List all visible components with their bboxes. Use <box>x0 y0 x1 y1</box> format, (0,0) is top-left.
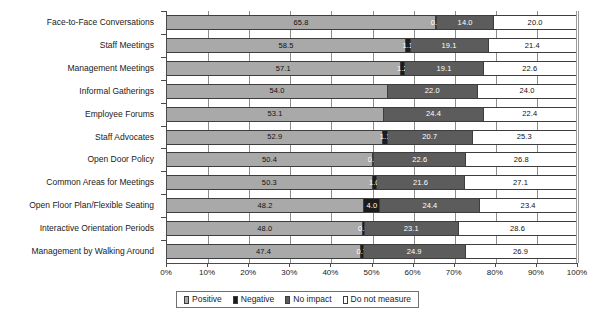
bar-segment-negative: 4.0 <box>364 199 380 212</box>
x-axis-tick-label: 20% <box>240 269 256 277</box>
bar-value-label: 22.0 <box>425 87 440 95</box>
bar-value-label: 19.1 <box>442 42 457 50</box>
chart-legend: PositiveNegativeNo impactDo not measure <box>176 291 419 308</box>
x-axis-tick <box>330 263 331 267</box>
legend-swatch <box>233 296 238 304</box>
bar-value-label: 65.8 <box>294 19 309 27</box>
legend-label: Negative <box>241 295 275 304</box>
bar-value-label: 22.4 <box>522 110 537 118</box>
bar-segment-do-not-measure: 21.4 <box>489 39 576 52</box>
bar-value-label: 24.0 <box>519 87 534 95</box>
bar-segment-positive: 50.4 <box>167 153 373 166</box>
bar-segment-positive: 50.3 <box>167 176 373 189</box>
category-label: Face-to-Face Conversations <box>0 18 154 27</box>
bar-segment-positive: 65.8 <box>167 16 436 29</box>
bar-segment-positive: 52.9 <box>167 131 383 144</box>
x-axis-tick-label: 50% <box>363 269 379 277</box>
x-axis-tick <box>577 263 578 267</box>
bar-row: 47.40.724.926.9 <box>167 244 576 259</box>
gridline <box>578 11 579 263</box>
legend-label: No impact <box>293 295 331 304</box>
category-label: Staff Advocates <box>0 133 154 142</box>
bar-segment-do-not-measure: 22.6 <box>484 62 576 75</box>
bar-segment-positive: 58.5 <box>167 39 406 52</box>
category-axis-tick <box>161 11 166 12</box>
x-axis-tick-label: 30% <box>281 269 297 277</box>
category-label: Employee Forums <box>0 110 154 119</box>
bar-row: 65.80.214.020.0 <box>167 15 576 30</box>
legend-item: Negative <box>233 295 275 304</box>
bar-value-label: 21.4 <box>525 42 540 50</box>
bar-row: 57.11.219.122.6 <box>167 61 576 76</box>
category-axis-tick <box>161 34 166 35</box>
bar-segment-positive: 54.0 <box>167 85 388 98</box>
category-label: Informal Gatherings <box>0 87 154 96</box>
category-axis-tick <box>161 103 166 104</box>
bar-segment-do-not-measure: 22.4 <box>484 108 576 121</box>
bar-value-label: 28.6 <box>510 225 525 233</box>
x-axis-tick <box>289 263 290 267</box>
legend-item: Do not measure <box>343 295 411 304</box>
bar-row: 52.91.120.725.3 <box>167 130 576 145</box>
legend-swatch <box>285 296 290 304</box>
category-label: Interactive Orientation Periods <box>0 224 154 233</box>
bar-value-label: 26.9 <box>513 248 528 256</box>
bar-segment-no-impact: 19.1 <box>411 39 489 52</box>
x-axis-tick <box>372 263 373 267</box>
bar-row: 50.40.222.626.8 <box>167 152 576 167</box>
bar-value-label: 25.3 <box>517 133 532 141</box>
bar-value-label: 20.7 <box>422 133 437 141</box>
bar-value-label: 4.0 <box>366 202 377 210</box>
bar-segment-do-not-measure: 28.6 <box>459 222 576 235</box>
category-axis-tick <box>161 240 166 241</box>
category-label: Open Floor Plan/Flexible Seating <box>0 201 154 210</box>
x-axis-tick <box>166 263 167 267</box>
legend-item: No impact <box>285 295 331 304</box>
bar-segment-no-impact: 22.0 <box>388 85 478 98</box>
bar-segment-no-impact: 14.0 <box>437 16 494 29</box>
bar-row: 54.022.024.0 <box>167 84 576 99</box>
x-axis-tick-label: 70% <box>446 269 462 277</box>
bar-segment-positive: 47.4 <box>167 245 361 258</box>
bar-segment-no-impact: 21.6 <box>377 176 465 189</box>
bar-value-label: 58.5 <box>279 42 294 50</box>
x-axis-tick <box>207 263 208 267</box>
bar-segment-do-not-measure: 25.3 <box>473 131 576 144</box>
x-axis-tick <box>536 263 537 267</box>
bar-segment-positive: 48.0 <box>167 222 363 235</box>
legend-label: Positive <box>192 295 222 304</box>
stacked-bar-chart: Face-to-Face ConversationsStaff Meetings… <box>0 0 594 319</box>
bar-segment-do-not-measure: 26.9 <box>466 245 576 258</box>
bar-value-label: 19.1 <box>436 65 451 73</box>
bar-value-label: 27.1 <box>513 179 528 187</box>
bar-segment-no-impact: 23.1 <box>365 222 459 235</box>
x-axis-tick-label: 100% <box>567 269 587 277</box>
x-axis-tick-label: 10% <box>199 269 215 277</box>
bar-value-label: 21.6 <box>413 179 428 187</box>
bar-value-label: 57.1 <box>276 65 291 73</box>
category-axis-tick <box>161 194 166 195</box>
bar-row: 58.51.119.121.4 <box>167 38 576 53</box>
x-axis-tick-label: 90% <box>528 269 544 277</box>
bar-value-label: 52.9 <box>267 133 282 141</box>
bar-row: 50.31.021.627.1 <box>167 175 576 190</box>
bar-segment-do-not-measure: 23.4 <box>480 199 576 212</box>
bar-segment-no-impact: 19.1 <box>405 62 483 75</box>
bar-value-label: 48.2 <box>258 202 273 210</box>
category-axis-tick <box>161 217 166 218</box>
legend-item: Positive <box>184 295 222 304</box>
bar-value-label: 22.6 <box>412 156 427 164</box>
bar-rows: 65.80.214.020.058.51.119.121.457.11.219.… <box>167 11 576 263</box>
legend-label: Do not measure <box>351 295 411 304</box>
x-axis-tick <box>248 263 249 267</box>
bar-segment-do-not-measure: 26.8 <box>466 153 576 166</box>
bar-value-label: 53.1 <box>268 110 283 118</box>
bar-value-label: 22.6 <box>522 65 537 73</box>
bar-value-label: 24.9 <box>407 248 422 256</box>
bar-value-label: 24.4 <box>426 110 441 118</box>
x-axis-tick <box>413 263 414 267</box>
legend-swatch <box>343 296 348 304</box>
category-label: Open Door Policy <box>0 155 154 164</box>
category-axis-tick <box>161 148 166 149</box>
bar-segment-positive: 57.1 <box>167 62 401 75</box>
